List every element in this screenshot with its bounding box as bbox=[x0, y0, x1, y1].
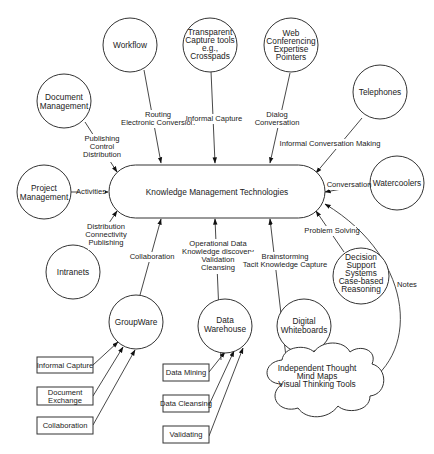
edge-validating-to-warehouse bbox=[209, 348, 243, 436]
km-technologies-diagram: Knowledge Management Technologies Workfl… bbox=[0, 0, 434, 454]
box-data-mining: Data Mining bbox=[163, 364, 209, 381]
edge-data-cleansing-to-warehouse bbox=[209, 351, 234, 405]
svg-text:Electronic Conversion: Electronic Conversion bbox=[121, 118, 195, 127]
label-decision-support: Problem Solving bbox=[304, 226, 359, 236]
svg-text:Publishing: Publishing bbox=[88, 238, 123, 247]
svg-text:Activities: Activities bbox=[76, 187, 106, 196]
svg-text:Data Cleansing: Data Cleansing bbox=[160, 399, 212, 408]
svg-text:Management: Management bbox=[40, 101, 89, 111]
label-project-management: Activities bbox=[76, 187, 106, 197]
box-data-cleansing: Data Cleansing bbox=[160, 395, 212, 412]
svg-text:Distribution: Distribution bbox=[83, 150, 121, 159]
svg-text:Informal Capture: Informal Capture bbox=[37, 361, 94, 370]
label-telephones: Informal Conversation Making bbox=[280, 139, 381, 149]
label-web-conferencing: Dialog Conversation bbox=[255, 110, 300, 128]
box-informal-capture: Informal Capture bbox=[37, 357, 94, 373]
node-document-management: Document Management bbox=[37, 74, 91, 128]
label-transparent-capture: Informal Capture bbox=[186, 114, 243, 124]
node-decision-support: Decision Support Systems Case-based Reas… bbox=[333, 248, 389, 304]
box-collaboration: Collaboration bbox=[37, 417, 93, 434]
label-independent-thought: Notes bbox=[397, 280, 417, 290]
svg-text:Notes: Notes bbox=[397, 280, 417, 289]
svg-text:Informal Capture: Informal Capture bbox=[186, 114, 243, 123]
svg-text:Whiteboards: Whiteboards bbox=[281, 325, 328, 335]
svg-text:Informal Conversation Making: Informal Conversation Making bbox=[280, 139, 381, 148]
svg-text:Collaboration: Collaboration bbox=[130, 252, 175, 261]
svg-text:Management: Management bbox=[20, 192, 69, 202]
node-transparent-capture: Transparent Capture tools e.g., Crosspad… bbox=[183, 18, 237, 72]
node-workflow: Workflow bbox=[103, 18, 157, 72]
svg-text:Pointers: Pointers bbox=[276, 52, 306, 62]
edge-document-exchange-to-groupware bbox=[93, 347, 123, 396]
label-digital-whiteboards: Brainstorming Tacit Knowledge Capture bbox=[243, 252, 327, 270]
svg-text:Telephones: Telephones bbox=[359, 87, 401, 97]
svg-text:Problem Solving: Problem Solving bbox=[304, 226, 359, 235]
node-groupware: GroupWare bbox=[109, 295, 163, 349]
node-independent-thought: Independent Thought Mind Maps Visual Thi… bbox=[267, 343, 384, 417]
svg-text:Intranets: Intranets bbox=[57, 267, 89, 277]
svg-text:GroupWare: GroupWare bbox=[115, 317, 158, 327]
node-web-conferencing: Web Conferencing Expertise Pointers bbox=[264, 18, 318, 72]
svg-text:Conversation: Conversation bbox=[327, 180, 372, 189]
svg-text:Cleansing: Cleansing bbox=[201, 263, 235, 272]
node-data-warehouse: Data Warehouse bbox=[198, 299, 252, 353]
label-document-management: Publishing Control Distribution bbox=[83, 134, 121, 162]
label-groupware: Collaboration bbox=[130, 252, 175, 262]
node-intranets: Intranets bbox=[46, 245, 100, 299]
label-intranets: Distribution Connectivity Publishing bbox=[85, 222, 127, 250]
svg-text:Collaboration: Collaboration bbox=[43, 421, 88, 430]
svg-text:Watercoolers: Watercoolers bbox=[373, 178, 422, 188]
node-project-management: Project Management bbox=[17, 165, 71, 219]
svg-text:Visual Thinking Tools: Visual Thinking Tools bbox=[278, 379, 356, 389]
node-telephones: Telephones bbox=[353, 65, 407, 119]
box-validating: Validating bbox=[163, 426, 209, 443]
label-workflow: Routing Electronic Conversion bbox=[121, 110, 195, 128]
node-watercoolers: Watercoolers bbox=[370, 156, 424, 210]
svg-text:Validating: Validating bbox=[170, 430, 203, 439]
svg-text:Tacit Knowledge Capture: Tacit Knowledge Capture bbox=[243, 260, 327, 269]
svg-text:Crosspads: Crosspads bbox=[190, 51, 230, 61]
svg-text:Workflow: Workflow bbox=[113, 40, 148, 50]
center-label: Knowledge Management Technologies bbox=[146, 187, 288, 197]
svg-text:Reasoning: Reasoning bbox=[341, 284, 381, 294]
svg-text:Exchange: Exchange bbox=[48, 396, 82, 405]
svg-text:Warehouse: Warehouse bbox=[204, 324, 247, 334]
svg-text:Conversation: Conversation bbox=[255, 118, 300, 127]
label-watercoolers: Conversation bbox=[327, 180, 372, 190]
center-node: Knowledge Management Technologies bbox=[109, 165, 325, 218]
edge-data-mining-to-warehouse bbox=[209, 352, 225, 372]
svg-text:Data Mining: Data Mining bbox=[166, 368, 207, 377]
box-document-exchange: Document Exchange bbox=[37, 387, 93, 405]
